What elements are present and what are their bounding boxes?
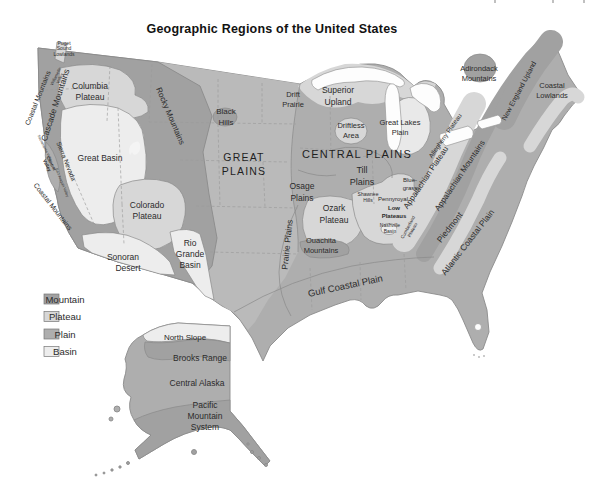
label-superior-upland: SuperiorUpland — [322, 85, 354, 107]
us-geographic-regions-figure: Geographic Regions of the United States … — [0, 0, 593, 491]
label-adirondack-mountains: AdirondackMountains — [460, 64, 498, 83]
label-brooks-range: Brooks Range — [173, 353, 227, 363]
legend-item-mountain: Mountain — [44, 294, 85, 305]
legend-item-plateau: Plateau — [44, 311, 81, 322]
label-coastal-lowlands: CoastalLowlands — [536, 81, 568, 100]
label-columbia-plateau: ColumbiaPlateau — [72, 81, 108, 102]
label-north-slope: North Slope — [164, 333, 207, 342]
label-pacific-mountain-system: PacificMountainSystem — [188, 400, 223, 432]
us-regions-map: Geographic Regions of the United States … — [0, 0, 593, 491]
legend-label-basin: Basin — [53, 346, 77, 357]
lake-okeechobee — [475, 324, 482, 331]
label-osage-plains: OsagePlains — [289, 181, 314, 203]
label-central-plains: CENTRAL PLAINS — [302, 148, 412, 160]
label-ouachita-mountains: OuachitaMountains — [304, 236, 339, 255]
label-colorado-plateau: ColoradoPlateau — [130, 200, 165, 221]
legend-label-mountain: Mountain — [45, 294, 84, 305]
florida-key — [478, 356, 480, 358]
cropped-header-marks — [494, 0, 585, 3]
label-sonoran-desert: SonoranDesert — [107, 252, 141, 273]
alaska — [95, 323, 270, 476]
legend-label-plateau: Plateau — [49, 311, 81, 322]
legend-label-plain: Plain — [54, 329, 75, 340]
label-puget-sound-lowlands: PugetSoundLowlands — [53, 40, 75, 57]
legend: Mountain Plateau Plain Basin — [44, 294, 85, 358]
label-central-alaska: Central Alaska — [170, 378, 225, 388]
label-great-basin: Great Basin — [78, 153, 123, 163]
florida-key — [483, 355, 485, 357]
legend-item-basin: Basin — [44, 346, 77, 357]
legend-item-plain: Plain — [44, 329, 76, 340]
label-great-plains: GREATPLAINS — [222, 151, 267, 177]
label-ozark-plateau: OzarkPlateau — [320, 203, 349, 225]
florida-key — [473, 354, 475, 356]
map-title: Geographic Regions of the United States — [147, 22, 398, 36]
